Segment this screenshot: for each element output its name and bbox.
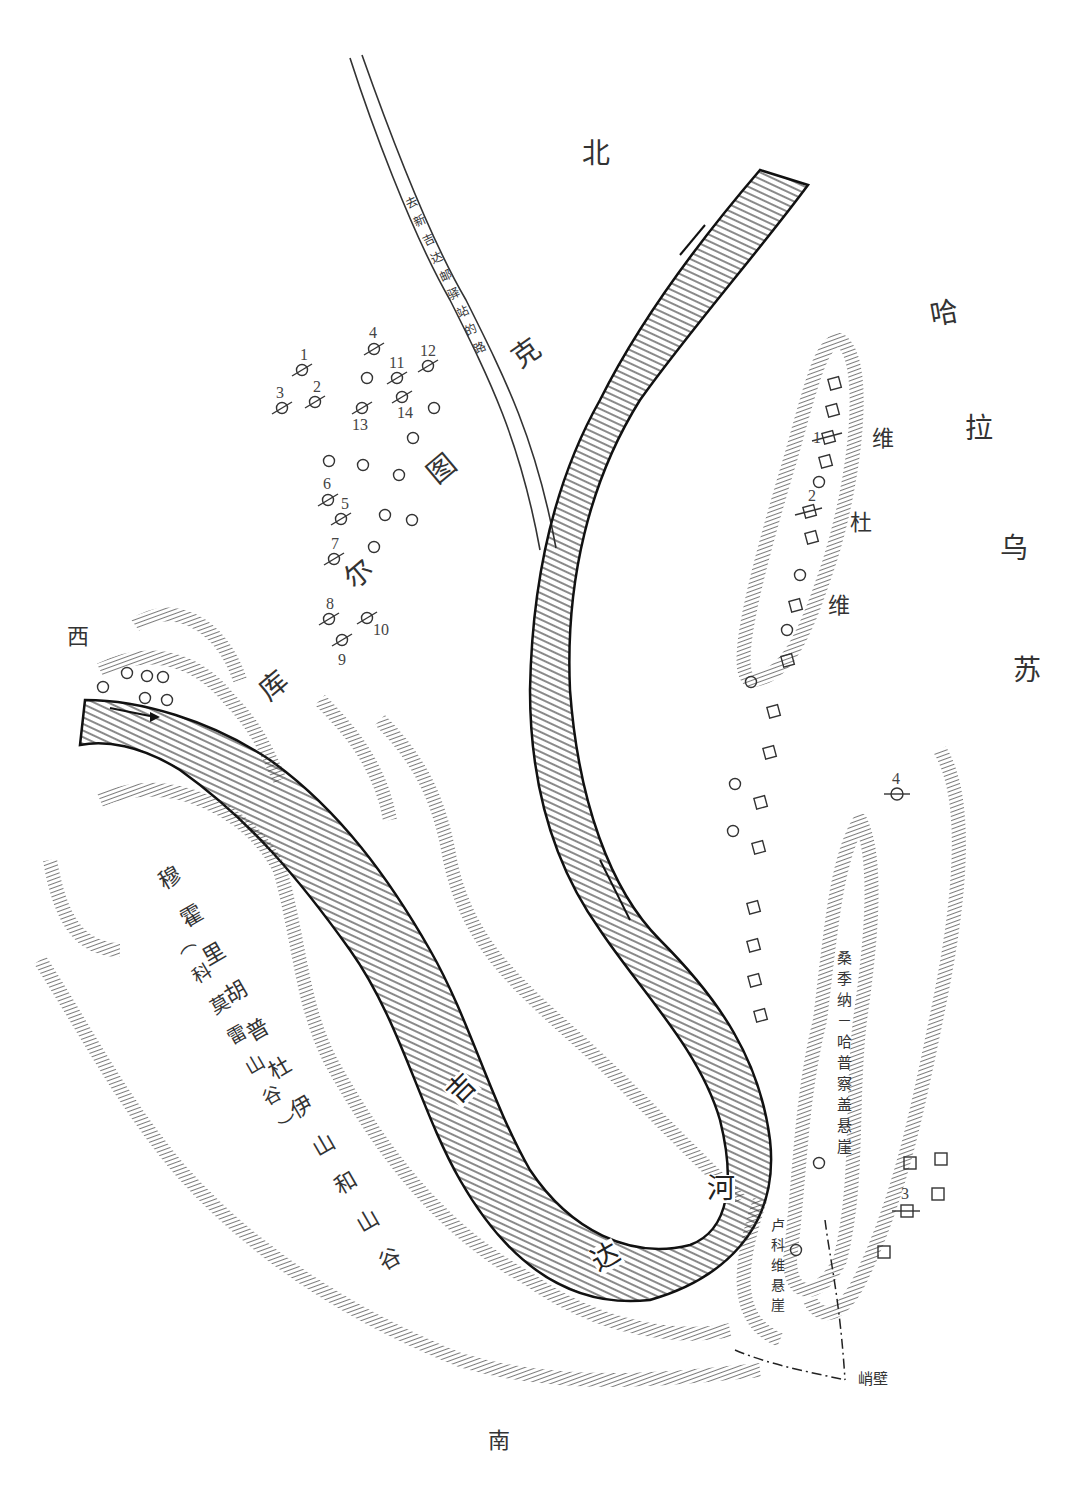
marker-number: 11 (389, 355, 404, 371)
region-kharausu-char-1: 哈 (928, 298, 960, 330)
steep-wall-label: 峭壁 (858, 1372, 888, 1387)
region-kharausu-char-4: 苏 (1013, 657, 1041, 685)
marker-number: 6 (323, 476, 331, 492)
kurtuk-burials (272, 343, 440, 646)
numbered-burial-icon (272, 402, 292, 414)
sangina-ridge (790, 820, 872, 1290)
marker-number: 4 (369, 325, 377, 341)
marker-number: 14 (397, 405, 413, 421)
map-canvas (0, 0, 1084, 1505)
numbered-burial-icon (319, 613, 339, 625)
region-viduvi-char-2: 杜 (850, 512, 872, 534)
numbered-burial-icon (364, 343, 384, 355)
marker-number: 4 (892, 771, 900, 787)
marker-number: 9 (338, 652, 346, 668)
marker-number: 5 (341, 496, 349, 512)
marker-number: 3 (276, 385, 284, 401)
numbered-burial-icon (418, 360, 438, 372)
marker-number: 10 (373, 622, 389, 638)
outer-west-ridge (50, 860, 120, 950)
east-ridge (810, 750, 959, 1313)
marker-number: 8 (326, 596, 334, 612)
compass-south: 南 (488, 1430, 510, 1452)
viduvi-ridge (744, 340, 857, 680)
region-kharausu-char-3: 乌 (1000, 535, 1028, 563)
marker-number: 13 (352, 417, 368, 433)
compass-north: 北 (582, 140, 610, 168)
region-viduvi-char-1: 维 (872, 428, 894, 450)
numbered-burial-icon (392, 391, 412, 403)
numbered-burial-icon (292, 364, 312, 376)
numbered-burial-icon (324, 553, 344, 565)
kida-river (80, 170, 808, 1301)
marker-number: 3 (901, 1186, 909, 1202)
numbered-burial-icon (332, 634, 352, 646)
compass-west: 西 (67, 626, 89, 648)
region-kharausu-char-2: 拉 (965, 415, 993, 443)
lukovi-cliff-label: 卢科维悬崖 (770, 1218, 784, 1318)
numbered-burial-icon (331, 513, 351, 525)
marker-number: 12 (420, 343, 436, 359)
numbered-burial-icon (387, 372, 407, 384)
region-viduvi-char-3: 维 (828, 595, 850, 617)
kuru-hills-1 (320, 700, 390, 820)
marker-number: 2 (313, 379, 321, 395)
marker-number: 1 (300, 347, 308, 363)
sangina-cliff-label: 桑季纳－哈普察盖悬崖 (835, 950, 850, 1160)
numbered-burial-icon (352, 402, 372, 414)
marker-number: 7 (331, 536, 339, 552)
numbered-burial-icon (318, 494, 338, 506)
marker-number: 1 (813, 430, 821, 446)
river-label-char-3: 河 (707, 1175, 735, 1203)
numbered-burial-icon (305, 396, 325, 408)
marker-number: 2 (808, 488, 816, 504)
